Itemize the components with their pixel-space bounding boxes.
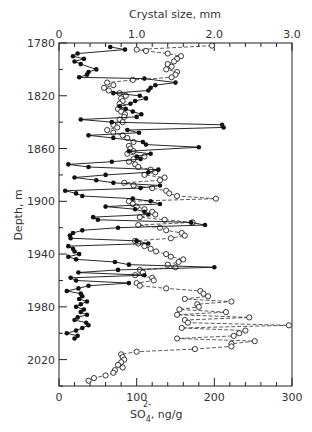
svg-text:2-: 2-: [143, 400, 151, 409]
svg-text:1900: 1900: [27, 195, 55, 208]
svg-text:1860: 1860: [27, 143, 55, 156]
svg-text:0: 0: [56, 391, 63, 404]
bottom-axis-tick-labels: 0100200300: [56, 391, 303, 404]
top-axis-title: Crystal size, mm: [129, 8, 221, 21]
sulfate-series: [63, 45, 226, 341]
top-axis-tick-labels: 01.02.03.0: [56, 28, 301, 41]
plot-frame: [59, 43, 292, 386]
svg-text:300: 300: [282, 391, 303, 404]
svg-text:SO4, ng/g: SO4, ng/g: [130, 408, 182, 424]
depth-profile-chart: Crystal size, mm 01.02.03.0 0100200300 1…: [0, 0, 312, 432]
svg-text:3.0: 3.0: [283, 28, 301, 41]
svg-text:200: 200: [204, 391, 225, 404]
svg-text:2.0: 2.0: [206, 28, 224, 41]
y-axis-title: Depth, m: [12, 189, 25, 240]
svg-text:2020: 2020: [27, 354, 55, 367]
y-axis-tick-labels: 1780182018601900194019802020: [27, 37, 55, 367]
axis-ticks: [59, 43, 292, 386]
svg-text:0: 0: [56, 28, 63, 41]
svg-text:1.0: 1.0: [128, 28, 146, 41]
svg-text:1780: 1780: [27, 37, 55, 50]
svg-text:1820: 1820: [27, 90, 55, 103]
svg-text:1940: 1940: [27, 248, 55, 261]
crystal-size-series: [86, 43, 292, 383]
svg-text:1980: 1980: [27, 301, 55, 314]
